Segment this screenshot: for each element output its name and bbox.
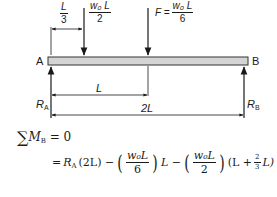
equation-sum-moments: ∑MB = 0 [17, 128, 71, 147]
reaction-b-label: RB [247, 98, 260, 111]
label-b: B [252, 55, 259, 67]
load-f-label: F = w₀ L6 [155, 1, 193, 24]
label-a: A [36, 55, 43, 67]
dimension-2l-label: 2L [141, 102, 153, 114]
reaction-a-label: RA [36, 98, 49, 111]
dimension-l3-label: L3 [60, 2, 68, 25]
dimension-l-label: L [96, 82, 102, 94]
equation-moment-expansion: = RA (2L) − (w₀L6) L − (w₀L2) (L + 23 L) [52, 150, 274, 175]
load-1-label: w₀ L2 [89, 1, 111, 24]
beam [48, 57, 248, 65]
